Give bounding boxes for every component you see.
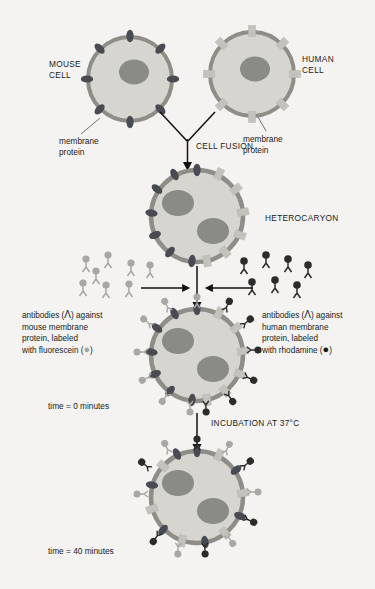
antibody-right-line4a: with rhodamine (	[261, 346, 323, 355]
antibody-right-line1b: ) against	[311, 311, 343, 320]
antibody-left-line2: mouse membrane	[22, 323, 88, 332]
heterocaryon-nucleus-1	[162, 190, 194, 216]
cell-fusion-label: CELL FUSION	[196, 141, 253, 151]
mouse-cell-label-line1: MOUSE	[49, 59, 81, 69]
antibody-left-line1b: ) against	[71, 311, 103, 320]
time40-nucleus-1	[162, 470, 194, 496]
human-cell-label-line2: CELL	[302, 65, 324, 75]
antibody-left-line3: protein, labeled	[22, 334, 78, 343]
antibody-left-line4a: with fluorescein (	[21, 346, 84, 355]
time-forty-label: time = 40 minutes	[48, 546, 114, 556]
heterocaryon-label: HETEROCARYON	[265, 213, 339, 223]
svg-text:antibodies (Λ) against: antibodies (Λ) against	[262, 309, 343, 320]
mouse-cell-label-line2: CELL	[49, 70, 71, 80]
antibody-left-line1a: antibodies (	[22, 311, 65, 320]
time40-nucleus-2	[197, 498, 229, 524]
membrane-protein-left-label-line2: protein	[59, 147, 85, 157]
incubation-label: INCUBATION AT 37°C	[211, 418, 299, 428]
human-cell	[203, 25, 300, 122]
time-zero-label: time = 0 minutes	[48, 401, 109, 411]
membrane-protein-left-label-line1: membrane	[59, 136, 99, 146]
svg-text:antibodies (Λ) against: antibodies (Λ) against	[22, 309, 103, 320]
time0-nucleus-1	[162, 328, 194, 354]
mouse-cell	[81, 30, 179, 128]
antibody-right-line4b: )	[329, 346, 332, 355]
human-cell-label-line1: HUMAN	[302, 54, 334, 64]
heterocaryon-nucleus-2	[197, 218, 229, 244]
human-nucleus	[240, 57, 270, 82]
antibody-left-line4b: )	[90, 346, 93, 355]
antibody-right-line1a: antibodies (	[262, 311, 305, 320]
mouse-nucleus	[119, 60, 149, 85]
cell-fusion-diagram: MOUSE CELL membrane protein HUMAN CELL m…	[0, 0, 375, 589]
antibody-right-line3: protein, labeled	[262, 334, 318, 343]
time0-nucleus-2	[197, 356, 229, 382]
antibody-right-line2: human membrane	[262, 323, 329, 332]
